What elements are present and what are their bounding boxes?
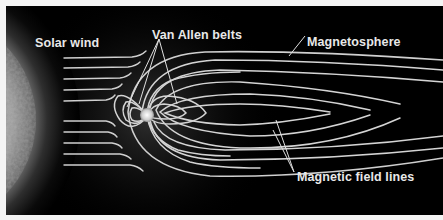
diagram-panel: Solar wind Van Allen belts Magnetosphere… [6, 6, 443, 215]
earth-icon [140, 108, 154, 122]
diagram-frame: Solar wind Van Allen belts Magnetosphere… [0, 0, 443, 220]
label-solar-wind: Solar wind [35, 36, 99, 50]
label-van-allen-belts: Van Allen belts [152, 28, 242, 42]
label-magnetosphere: Magnetosphere [307, 35, 401, 49]
label-magnetic-field-lines: Magnetic field lines [297, 170, 414, 184]
